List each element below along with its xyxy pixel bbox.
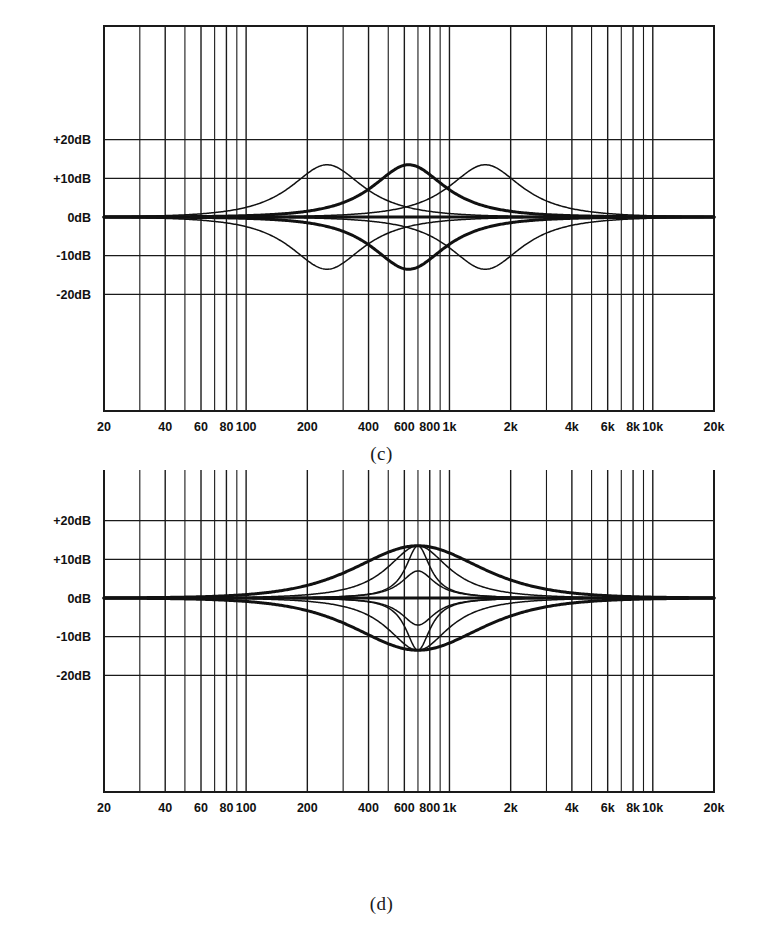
response-curve [104, 546, 714, 598]
x-axis-tick-label: 4k [565, 420, 579, 434]
y-axis-tick-label: +10dB [53, 172, 91, 186]
response-curve [104, 165, 714, 217]
x-axis-tick-label: 800 [419, 420, 440, 434]
x-axis-tick-label: 6k [601, 420, 615, 434]
x-axis-tick-label: 60 [194, 801, 208, 815]
x-axis-tick-label: 60 [194, 420, 208, 434]
figure-page: +20dB+10dB0dB-10dB-20dB20406080100200400… [0, 0, 763, 932]
response-curve [104, 598, 714, 650]
x-axis-tick-label: 2k [504, 801, 518, 815]
x-axis-tick-label: 6k [601, 801, 615, 815]
x-axis-tick-label: 4k [565, 801, 579, 815]
x-axis-tick-label: 400 [358, 801, 379, 815]
response-curve [104, 598, 714, 650]
x-axis-tick-label: 20k [704, 801, 725, 815]
x-axis-tick-label: 8k [626, 801, 640, 815]
x-axis-tick-label: 600 [394, 420, 415, 434]
chart-d-svg: +20dB+10dB0dB-10dB-20dB20406080100200400… [0, 470, 763, 932]
x-axis-tick-label: 80 [219, 420, 233, 434]
y-axis-tick-label: 0dB [67, 211, 91, 225]
x-axis-tick-label: 2k [504, 420, 518, 434]
y-axis-tick-label: -20dB [56, 288, 91, 302]
figure-footer-text [0, 918, 763, 932]
x-axis-tick-label: 8k [626, 420, 640, 434]
response-curve [104, 217, 714, 269]
response-curves [104, 165, 714, 269]
x-axis-tick-label: 80 [219, 801, 233, 815]
response-curve [104, 217, 714, 269]
response-curves [104, 546, 714, 650]
x-axis-tick-label: 40 [158, 801, 172, 815]
chart-panel-d: +20dB+10dB0dB-10dB-20dB20406080100200400… [0, 470, 763, 932]
x-axis-tick-label: 400 [358, 420, 379, 434]
x-axis-tick-label: 1k [443, 801, 457, 815]
x-axis-tick-label: 20k [704, 420, 725, 434]
response-curve [104, 598, 714, 625]
y-axis-tick-label: -10dB [56, 249, 91, 263]
panel-caption-c: (c) [0, 443, 763, 465]
x-axis-tick-label: 200 [297, 801, 318, 815]
x-axis-tick-label: 600 [394, 801, 415, 815]
x-axis-tick-label: 10k [642, 420, 663, 434]
x-axis-tick-label: 40 [158, 420, 172, 434]
x-axis-tick-label: 100 [236, 801, 257, 815]
response-curve [104, 217, 714, 269]
x-axis-tick-label: 10k [642, 801, 663, 815]
y-axis-tick-label: -10dB [56, 630, 91, 644]
chart-panel-c: +20dB+10dB0dB-10dB-20dB20406080100200400… [0, 0, 763, 470]
chart-c-svg: +20dB+10dB0dB-10dB-20dB20406080100200400… [0, 0, 763, 470]
y-axis-tick-label: 0dB [67, 592, 91, 606]
panel-caption-d: (d) [0, 893, 763, 915]
response-curve [104, 546, 714, 598]
y-axis-tick-label: +20dB [53, 133, 91, 147]
response-curve [104, 598, 714, 650]
response-curve [104, 571, 714, 598]
x-axis-tick-label: 20 [97, 801, 111, 815]
y-axis-tick-label: +20dB [53, 514, 91, 528]
x-axis-tick-label: 200 [297, 420, 318, 434]
x-axis-tick-label: 100 [236, 420, 257, 434]
x-axis-tick-label: 800 [419, 801, 440, 815]
response-curve [104, 165, 714, 217]
grid-lines [104, 470, 714, 792]
x-axis-tick-label: 20 [97, 420, 111, 434]
response-curve [104, 165, 714, 217]
x-axis-tick-label: 1k [443, 420, 457, 434]
plot-frame [104, 470, 714, 792]
y-axis-tick-label: +10dB [53, 553, 91, 567]
response-curve [104, 546, 714, 598]
y-axis-tick-label: -20dB [56, 669, 91, 683]
